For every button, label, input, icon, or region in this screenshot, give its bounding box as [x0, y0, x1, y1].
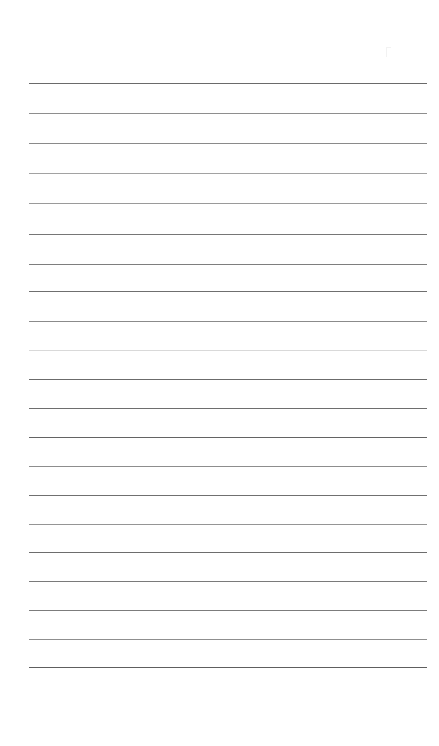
rule-line	[29, 437, 427, 438]
rule-line	[29, 379, 427, 380]
rule-line	[29, 83, 427, 84]
lined-paper-page	[0, 0, 439, 746]
rule-line	[29, 264, 427, 265]
rule-line	[29, 173, 427, 174]
faint-speck	[386, 47, 391, 57]
rule-line	[29, 581, 427, 582]
rule-line	[29, 495, 427, 496]
rule-line	[29, 667, 427, 668]
rule-line	[29, 466, 427, 467]
rule-line	[29, 524, 427, 525]
rule-line	[29, 291, 427, 292]
rule-line	[29, 350, 427, 351]
rule-line	[29, 610, 427, 611]
rule-line	[29, 321, 427, 322]
rule-line	[29, 408, 427, 409]
rule-line	[29, 203, 427, 204]
rule-line	[29, 639, 427, 640]
rule-line	[29, 234, 427, 235]
rule-line	[29, 143, 427, 144]
rule-line	[29, 552, 427, 553]
rule-line	[29, 113, 427, 114]
